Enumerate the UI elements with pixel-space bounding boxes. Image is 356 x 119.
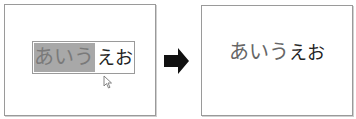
selected-text[interactable]: あいう xyxy=(34,43,95,72)
right-arrow-icon xyxy=(164,48,190,74)
input-text: あいうえお xyxy=(34,43,133,72)
text-input[interactable]: あいうえお xyxy=(32,41,135,74)
unselected-text: えお xyxy=(97,47,133,68)
before-panel: あいうえお xyxy=(4,4,156,116)
result-text-large: あいう xyxy=(229,40,289,64)
result-text-small: えお xyxy=(289,42,325,63)
after-panel: あいうえお xyxy=(201,5,353,116)
mouse-pointer-icon xyxy=(103,75,113,89)
result-text: あいうえお xyxy=(202,36,352,65)
